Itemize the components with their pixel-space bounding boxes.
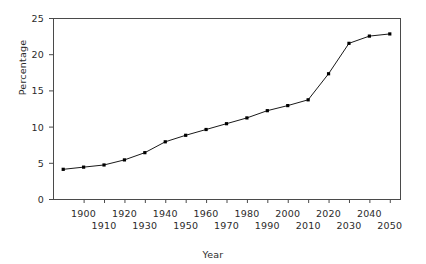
plot-frame bbox=[54, 19, 401, 200]
x-tick-label: 2020 bbox=[316, 208, 341, 219]
chart-figure: Percentage Year 051015202519001910192019… bbox=[0, 0, 426, 264]
x-tick-label: 1940 bbox=[153, 208, 178, 219]
data-point-marker bbox=[307, 98, 310, 101]
x-tick-label: 1910 bbox=[92, 220, 117, 231]
x-tick-label: 1950 bbox=[173, 220, 198, 231]
x-tick-label: 1960 bbox=[194, 208, 219, 219]
data-point-marker bbox=[347, 42, 350, 45]
data-point-marker bbox=[82, 166, 85, 169]
data-point-marker bbox=[368, 35, 371, 38]
line-chart-plot bbox=[0, 0, 426, 264]
data-point-marker bbox=[102, 163, 105, 166]
x-tick-label: 1990 bbox=[255, 220, 280, 231]
data-line bbox=[63, 34, 390, 169]
data-point-marker bbox=[225, 122, 228, 125]
y-tick-label: 15 bbox=[0, 85, 44, 96]
x-tick-label: 1920 bbox=[112, 208, 137, 219]
y-tick-label: 20 bbox=[0, 49, 44, 60]
x-tick-label: 2040 bbox=[357, 208, 382, 219]
x-axis-label-wrapper: Year bbox=[0, 243, 426, 262]
data-point-marker bbox=[184, 134, 187, 137]
data-point-marker bbox=[204, 128, 207, 131]
data-point-marker bbox=[164, 140, 167, 143]
y-tick-label: 25 bbox=[0, 13, 44, 24]
x-axis-label: Year bbox=[203, 249, 224, 260]
data-point-marker bbox=[388, 32, 391, 35]
y-tick-label: 10 bbox=[0, 121, 44, 132]
x-tick-label: 1900 bbox=[71, 208, 96, 219]
x-tick-label: 2010 bbox=[296, 220, 321, 231]
data-point-marker bbox=[286, 104, 289, 107]
data-point-marker bbox=[245, 116, 248, 119]
x-tick-label: 2030 bbox=[336, 220, 361, 231]
x-tick-label: 1930 bbox=[132, 220, 157, 231]
data-point-marker bbox=[123, 158, 126, 161]
y-tick-label: 0 bbox=[0, 194, 44, 205]
x-tick-label: 2050 bbox=[377, 220, 402, 231]
x-tick-label: 1980 bbox=[234, 208, 259, 219]
y-tick-label: 5 bbox=[0, 157, 44, 168]
data-point-marker bbox=[266, 109, 269, 112]
data-point-marker bbox=[327, 72, 330, 75]
data-point-marker bbox=[143, 151, 146, 154]
data-point-marker bbox=[62, 168, 65, 171]
x-tick-label: 2000 bbox=[275, 208, 300, 219]
x-tick-label: 1970 bbox=[214, 220, 239, 231]
y-axis-label-wrapper: Percentage bbox=[11, 18, 30, 118]
